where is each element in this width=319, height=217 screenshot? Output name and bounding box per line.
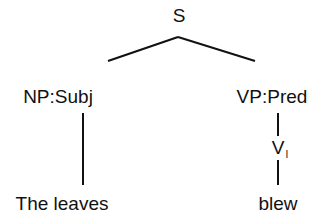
node-np-subj: NP:Subj bbox=[23, 87, 93, 106]
node-v-label: V bbox=[272, 137, 285, 158]
leaf-the-leaves: The leaves bbox=[16, 194, 109, 213]
tree-edges bbox=[0, 0, 319, 217]
node-v: VI bbox=[272, 138, 288, 157]
node-s: S bbox=[173, 6, 186, 25]
edge-s-vp bbox=[178, 37, 255, 61]
leaf-blew: blew bbox=[258, 194, 297, 213]
edge-s-np bbox=[108, 37, 178, 61]
node-vp-pred: VP:Pred bbox=[237, 87, 308, 106]
